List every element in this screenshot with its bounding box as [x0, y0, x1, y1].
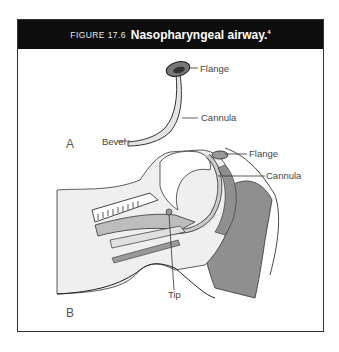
callout-cannula-b: Cannula [266, 171, 301, 181]
panel-label-a: A [66, 137, 74, 151]
airway-device-illustration [117, 59, 198, 146]
callout-flange-a: Flange [200, 64, 229, 74]
head-cross-section-illustration [57, 148, 279, 298]
callout-cannula-a: Cannula [201, 113, 236, 123]
panel-label-b: B [66, 306, 74, 320]
callout-tip: Tip [168, 290, 181, 300]
callout-flange-b: Flange [249, 149, 278, 159]
callout-bevel: Bevel [102, 137, 126, 147]
